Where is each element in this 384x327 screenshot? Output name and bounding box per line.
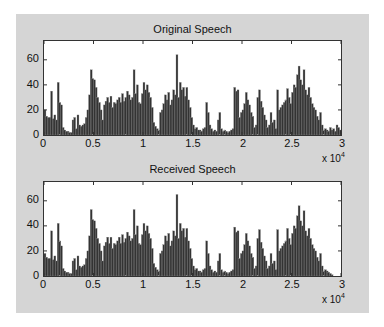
ytick-20: 20 bbox=[17, 103, 39, 115]
x-multiplier-received: x 104 bbox=[322, 292, 345, 305]
ytick-40: 40 bbox=[17, 218, 39, 230]
ytick-20: 20 bbox=[17, 244, 39, 256]
received-speech-axes bbox=[43, 181, 342, 277]
xtick-0.5: 0.5 bbox=[81, 137, 105, 149]
plot-title-original: Original Speech bbox=[43, 23, 342, 35]
xtick-2.5: 2.5 bbox=[280, 137, 304, 149]
xtick-2: 2 bbox=[231, 137, 255, 149]
xtick-1.5: 1.5 bbox=[181, 137, 205, 149]
ytick-40: 40 bbox=[17, 78, 39, 90]
bar-series bbox=[44, 182, 341, 276]
xtick-2.5: 2.5 bbox=[280, 278, 304, 290]
xtick-1: 1 bbox=[131, 137, 155, 149]
xtick-0: 0 bbox=[31, 278, 55, 290]
ytick-60: 60 bbox=[17, 52, 39, 64]
xtick-1: 1 bbox=[131, 278, 155, 290]
xtick-1.5: 1.5 bbox=[181, 278, 205, 290]
xtick-3: 3 bbox=[330, 137, 354, 149]
xtick-0.5: 0.5 bbox=[81, 278, 105, 290]
xtick-3: 3 bbox=[330, 278, 354, 290]
plot-title-received: Received Speech bbox=[43, 163, 342, 175]
xtick-2: 2 bbox=[231, 278, 255, 290]
bar-series bbox=[44, 41, 341, 135]
xtick-0: 0 bbox=[31, 137, 55, 149]
ytick-60: 60 bbox=[17, 193, 39, 205]
original-speech-axes bbox=[43, 40, 342, 136]
